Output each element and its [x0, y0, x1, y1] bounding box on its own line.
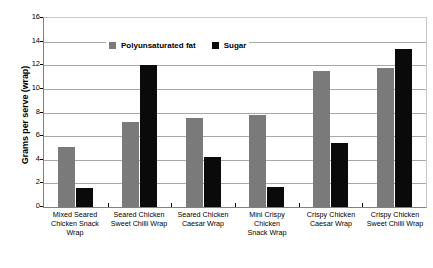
- bar-chart: Grams per serve (wrap) 1614121086420 Pol…: [0, 0, 433, 268]
- legend-item-polyunsaturated-fat: Polyunsaturated fat: [109, 41, 196, 50]
- x-axis-label-line: Mixed Seared: [44, 210, 106, 219]
- y-axis-tick-label: 12: [18, 60, 40, 68]
- y-axis-tick-label: 16: [18, 13, 40, 21]
- x-axis-label-line: Snack Wrap: [236, 228, 298, 237]
- x-axis-label-line: Seared Chicken: [108, 210, 170, 219]
- bar-group: [362, 18, 426, 207]
- x-axis-label-line: Crispy Chicken: [300, 210, 362, 219]
- y-axis-tick-label: 2: [18, 178, 40, 186]
- legend-swatch-icon-fat: [109, 42, 116, 49]
- x-axis-label-line: Chicken Snack Wrap: [44, 219, 106, 237]
- plot-area: Polyunsaturated fat Sugar: [43, 17, 427, 208]
- x-axis-label: Mixed SearedChicken Snack Wrap: [43, 210, 107, 237]
- y-axis-tick-label: 8: [18, 108, 40, 116]
- x-axis-label: Seared ChickenSweet Chilli Wrap: [107, 210, 171, 237]
- x-axis-label: Crispy ChickenCaesar Wrap: [299, 210, 363, 237]
- y-axis-tick-label: 4: [18, 155, 40, 163]
- bar[interactable]: [204, 157, 221, 207]
- y-axis-tick-label: 6: [18, 131, 40, 139]
- bar[interactable]: [313, 71, 330, 207]
- chart-legend: Polyunsaturated fat Sugar: [106, 40, 249, 51]
- x-axis-label-line: Mini Crispy Chicken: [236, 210, 298, 228]
- bar[interactable]: [58, 147, 75, 207]
- x-axis-label-line: Seared Chicken: [172, 210, 234, 219]
- x-axis-label: Crispy ChickenSweet Chilli Wrap: [363, 210, 427, 237]
- y-axis-tick-label: 14: [18, 37, 40, 45]
- bar-group: [299, 18, 363, 207]
- legend-label-sugar: Sugar: [224, 41, 247, 50]
- x-axis-label-line: Caesar Wrap: [172, 219, 234, 228]
- bar-group: [44, 18, 108, 207]
- bar[interactable]: [377, 68, 394, 207]
- bar[interactable]: [331, 143, 348, 207]
- x-axis-label: Mini Crispy ChickenSnack Wrap: [235, 210, 299, 237]
- bar[interactable]: [140, 65, 157, 207]
- x-axis-label-line: Sweet Chilli Wrap: [364, 219, 426, 228]
- bar[interactable]: [122, 122, 139, 207]
- x-axis-label-line: Crispy Chicken: [364, 210, 426, 219]
- y-axis-tick-label: 0: [18, 202, 40, 210]
- bar[interactable]: [249, 115, 266, 207]
- bar[interactable]: [267, 187, 284, 207]
- x-axis-label: Seared ChickenCaesar Wrap: [171, 210, 235, 237]
- legend-swatch-icon-sugar: [212, 42, 219, 49]
- bar[interactable]: [76, 188, 93, 207]
- x-axis-label-line: Sweet Chilli Wrap: [108, 219, 170, 228]
- x-axis-label-line: Caesar Wrap: [300, 219, 362, 228]
- bar[interactable]: [186, 118, 203, 207]
- legend-label-fat: Polyunsaturated fat: [121, 41, 196, 50]
- x-axis-category-labels: Mixed SearedChicken Snack WrapSeared Chi…: [43, 210, 427, 237]
- bar[interactable]: [395, 49, 412, 207]
- legend-item-sugar: Sugar: [212, 41, 247, 50]
- y-axis-tick-label: 10: [18, 84, 40, 92]
